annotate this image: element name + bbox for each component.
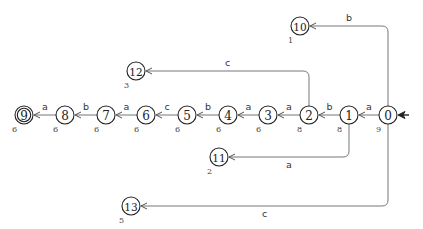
state-count: 6 <box>134 125 139 134</box>
edge-3-4: a <box>238 101 259 118</box>
state-1: 18 <box>337 106 358 134</box>
edge-label: b <box>205 101 211 112</box>
state-13: 135 <box>119 197 140 225</box>
edge-label: a <box>246 101 252 112</box>
state-8: 86 <box>53 106 74 134</box>
state-label: 13 <box>124 201 137 213</box>
state-label: 9 <box>20 109 28 123</box>
state-7: 76 <box>94 106 115 134</box>
state-count: 2 <box>207 167 212 176</box>
edge-0-10: b <box>310 12 388 106</box>
state-count: 6 <box>12 125 17 134</box>
start-arrow-icon <box>398 112 409 119</box>
edge-label: a <box>286 101 292 112</box>
state-count: 6 <box>216 125 221 134</box>
edge-0-13: c <box>141 124 388 219</box>
edge-1-11: a <box>229 124 349 170</box>
edge-label: a <box>42 101 48 112</box>
state-label: 12 <box>129 66 142 78</box>
edge-1-2: b <box>319 101 340 118</box>
edge-label: a <box>124 101 130 112</box>
edges-layer: abaabcababcac <box>34 12 388 219</box>
state-count: 3 <box>124 81 129 90</box>
edge-7-8: b <box>75 101 97 118</box>
state-label: 4 <box>224 109 232 123</box>
state-label: 5 <box>183 109 191 123</box>
state-6: 66 <box>134 106 155 134</box>
edge-line <box>229 124 349 157</box>
edge-label: b <box>326 101 332 112</box>
state-12: 123 <box>124 62 145 90</box>
edge-label: c <box>164 101 169 112</box>
state-count: 8 <box>297 125 302 134</box>
state-11: 112 <box>207 148 228 176</box>
state-2: 28 <box>297 106 318 134</box>
state-count: 6 <box>256 125 261 134</box>
state-count: 6 <box>175 125 180 134</box>
state-count: 6 <box>53 125 58 134</box>
edge-8-9: a <box>34 101 56 118</box>
edge-line <box>141 124 388 206</box>
state-9: 96 <box>12 106 33 134</box>
state-10: 101 <box>288 17 309 45</box>
edge-5-6: c <box>156 101 178 118</box>
state-count: 8 <box>337 125 342 134</box>
edge-4-5: b <box>197 101 219 118</box>
state-label: 3 <box>264 109 272 123</box>
state-label: 6 <box>142 109 150 123</box>
state-count: 5 <box>119 216 124 225</box>
state-0: 09 <box>376 106 397 134</box>
edge-line <box>146 71 309 106</box>
state-label: 0 <box>384 109 392 123</box>
edge-2-12: c <box>146 57 309 106</box>
edge-label: c <box>262 208 267 219</box>
state-label: 1 <box>345 109 353 123</box>
nodes-layer: 09182836465666768696101112123135 <box>12 17 409 225</box>
state-label: 2 <box>305 109 313 123</box>
state-label: 11 <box>212 152 225 164</box>
state-count: 1 <box>288 36 293 45</box>
state-label: 8 <box>61 109 69 123</box>
state-diagram: abaabcababcac 09182836465666768696101112… <box>0 0 423 229</box>
edge-label: a <box>286 159 292 170</box>
state-count: 9 <box>376 125 381 134</box>
edge-0-1: a <box>359 101 379 118</box>
state-count: 6 <box>94 125 99 134</box>
state-4: 46 <box>216 106 237 134</box>
edge-label: c <box>225 57 230 68</box>
edge-label: b <box>83 101 89 112</box>
edge-label: a <box>366 101 372 112</box>
state-5: 56 <box>175 106 196 134</box>
edge-line <box>310 26 388 106</box>
state-label: 10 <box>293 21 306 33</box>
state-label: 7 <box>102 109 110 123</box>
edge-label: b <box>346 12 352 23</box>
edge-6-7: a <box>116 101 137 118</box>
state-3: 36 <box>256 106 277 134</box>
edge-2-3: a <box>278 101 300 118</box>
